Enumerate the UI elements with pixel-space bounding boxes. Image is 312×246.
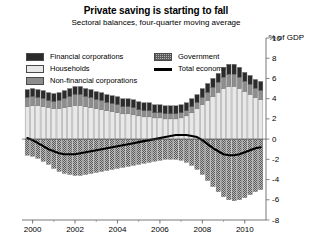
bar-segment-nonfinancial xyxy=(121,107,125,114)
bar-segment-government xyxy=(52,139,56,168)
bar-segment-financial xyxy=(163,106,167,114)
bar-segment-financial xyxy=(195,95,199,103)
bar-segment-government xyxy=(227,139,231,200)
bar-segment-households xyxy=(248,95,252,139)
bar-segment-financial xyxy=(121,99,125,107)
bar-segment-households xyxy=(25,107,29,139)
bar-segment-nonfinancial xyxy=(137,110,141,116)
bar-segment-nonfinancial xyxy=(237,77,241,88)
bar-segment-financial xyxy=(221,67,225,77)
bar-segment-financial xyxy=(147,103,151,111)
bar-segment-financial xyxy=(110,96,114,104)
bar-segment-nonfinancial xyxy=(41,99,45,107)
bar-segment-households xyxy=(259,100,263,139)
bar-segment-financial xyxy=(115,97,119,105)
bar-segment-nonfinancial xyxy=(211,88,215,97)
bar-segment-government xyxy=(195,139,199,169)
bar-segment-financial xyxy=(253,79,257,88)
bar-segment-financial xyxy=(205,84,209,93)
bar-segment-financial xyxy=(126,99,130,107)
bar-segment-financial xyxy=(142,103,146,111)
bar-segment-nonfinancial xyxy=(147,111,151,117)
bar-segment-financial xyxy=(216,73,220,82)
bar-segment-households xyxy=(200,105,204,139)
bar-layer xyxy=(25,64,263,201)
bar-segment-households xyxy=(216,93,220,140)
bar-segment-government xyxy=(168,139,172,159)
bar-segment-financial xyxy=(57,93,61,101)
bar-segment-households xyxy=(89,108,93,139)
bar-segment-financial xyxy=(179,105,183,113)
bar-segment-nonfinancial xyxy=(126,107,130,114)
bar-segment-households xyxy=(243,92,247,140)
bar-segment-households xyxy=(152,118,156,139)
bar-segment-nonfinancial xyxy=(78,95,82,106)
bar-segment-households xyxy=(142,117,146,139)
bar-segment-households xyxy=(68,107,72,139)
bar-segment-government xyxy=(190,139,194,165)
bar-segment-financial xyxy=(184,103,188,111)
bar-segment-nonfinancial xyxy=(89,98,93,108)
bar-segment-nonfinancial xyxy=(243,81,247,91)
bar-segment-government xyxy=(216,139,220,192)
bar-segment-households xyxy=(211,97,215,139)
bar-segment-nonfinancial xyxy=(253,89,257,98)
bar-segment-households xyxy=(52,109,56,139)
bar-segment-nonfinancial xyxy=(163,114,167,119)
bar-segment-nonfinancial xyxy=(248,85,252,95)
bar-segment-households xyxy=(205,101,209,139)
bar-segment-households xyxy=(131,115,135,139)
bar-segment-nonfinancial xyxy=(52,102,56,109)
bar-segment-nonfinancial xyxy=(46,101,50,108)
chart-subtitle: Sectoral balances, four-quarter moving a… xyxy=(0,18,312,27)
bar-segment-nonfinancial xyxy=(57,101,61,109)
bar-segment-financial xyxy=(137,102,141,110)
bar-segment-nonfinancial xyxy=(115,105,119,113)
bar-segment-nonfinancial xyxy=(227,74,231,86)
bar-segment-nonfinancial xyxy=(200,98,204,105)
bar-segment-financial xyxy=(52,94,56,102)
bar-segment-government xyxy=(83,139,87,174)
bar-segment-financial xyxy=(99,93,103,101)
bar-segment-households xyxy=(253,98,257,139)
bar-segment-financial xyxy=(243,72,247,81)
bar-segment-financial xyxy=(168,106,172,114)
bar-segment-households xyxy=(158,118,162,139)
plot-canvas xyxy=(22,38,266,220)
bar-segment-nonfinancial xyxy=(68,97,72,107)
bar-segment-financial xyxy=(259,81,263,90)
bar-segment-government xyxy=(115,139,119,168)
bar-segment-nonfinancial xyxy=(205,93,209,101)
bar-segment-nonfinancial xyxy=(259,91,263,100)
bar-segment-government xyxy=(68,139,72,174)
bar-segment-nonfinancial xyxy=(105,103,109,111)
bar-segment-nonfinancial xyxy=(110,104,114,112)
bar-segment-government xyxy=(105,139,109,170)
bar-segment-households xyxy=(36,106,40,139)
bar-segment-financial xyxy=(105,95,109,103)
bar-segment-government xyxy=(41,139,45,161)
y-axis-tick-label: 0 xyxy=(272,135,302,144)
bar-segment-government xyxy=(110,139,114,169)
bar-segment-financial xyxy=(30,89,34,97)
bar-segment-financial xyxy=(46,93,50,101)
bar-segment-government xyxy=(179,139,183,160)
bar-segment-nonfinancial xyxy=(216,82,220,92)
bar-segment-nonfinancial xyxy=(62,99,66,108)
bar-segment-households xyxy=(137,116,141,139)
bar-segment-households xyxy=(78,106,82,139)
bar-segment-government xyxy=(163,139,167,159)
bar-segment-households xyxy=(62,108,66,139)
plot-area xyxy=(22,38,266,220)
y-axis-tick-label: 10 xyxy=(272,34,302,43)
bar-segment-households xyxy=(121,114,125,139)
bar-segment-financial xyxy=(190,99,194,107)
y-axis-tick-label: -2 xyxy=(272,155,302,164)
bar-segment-households xyxy=(83,107,87,139)
bar-segment-households xyxy=(46,108,50,139)
bar-segment-nonfinancial xyxy=(168,114,172,119)
bar-segment-financial xyxy=(36,90,40,98)
chart-title: Private saving is starting to fall xyxy=(0,5,312,16)
bar-segment-financial xyxy=(68,89,72,97)
bar-segment-households xyxy=(73,106,77,139)
